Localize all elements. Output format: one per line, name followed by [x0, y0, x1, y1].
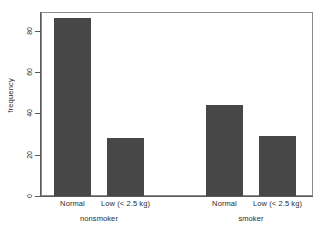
bar [107, 138, 144, 196]
plot-area [41, 12, 313, 196]
y-tick-label-text: 60 [26, 68, 33, 76]
bar [259, 136, 296, 196]
x-axis-line [41, 196, 313, 197]
y-tick-mark [35, 196, 40, 197]
y-tick-mark [35, 113, 40, 114]
y-tick-label: 20 [20, 148, 33, 162]
y-tick-mark [35, 31, 40, 32]
x-tick-label: Low (< 2.5 kg) [101, 199, 150, 208]
y-tick-mark [35, 72, 40, 73]
bar [54, 18, 91, 196]
y-tick-mark [35, 155, 40, 156]
y-tick-label-text: 40 [26, 109, 33, 117]
x-group-label: smoker [238, 214, 263, 223]
y-tick-label: 80 [20, 24, 33, 38]
bar [206, 105, 243, 196]
x-tick-label: Low (< 2.5 kg) [253, 199, 302, 208]
x-group-label: nonsmoker [80, 214, 118, 223]
y-tick-label: 60 [20, 65, 33, 79]
x-tick-label: Normal [212, 199, 237, 208]
y-tick-label-text: 0 [26, 194, 33, 198]
y-axis-title: frequency [6, 78, 15, 113]
y-tick-label-text: 20 [26, 151, 33, 159]
bar-chart-figure: frequency NormalLow (< 2.5 kg)NormalLow … [0, 0, 325, 237]
y-tick-label: 0 [20, 189, 33, 203]
y-tick-label-text: 80 [26, 27, 33, 35]
x-tick-label: Normal [60, 199, 85, 208]
y-tick-label: 40 [20, 106, 33, 120]
y-axis-line [40, 12, 41, 197]
